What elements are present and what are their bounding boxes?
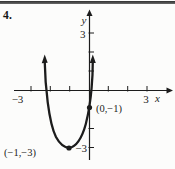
curve-left-arrowhead-icon <box>42 55 48 64</box>
x-axis-arrowhead-icon <box>167 88 174 94</box>
point-y-intercept <box>87 105 92 110</box>
y-tick-label-3: 3 <box>80 28 86 40</box>
textbook-figure: 4. y <box>0 0 175 169</box>
parabola-curve <box>45 61 93 148</box>
y-axis-label: y <box>81 14 87 26</box>
x-axis-label: x <box>154 92 160 104</box>
y-axis-arrowhead-icon <box>87 10 93 17</box>
point-y-intercept-label: (0,−1) <box>96 103 123 115</box>
point-vertex <box>66 145 71 150</box>
y-tick-label-neg3: −3 <box>75 142 87 154</box>
point-vertex-label: (−1,−3) <box>4 147 36 159</box>
curve-right-arrowhead-icon <box>90 55 96 64</box>
parabola-graph: y 3 −3 −3 3 x (0,−1) (−1,−3) <box>0 0 175 169</box>
x-tick-label-neg3: −3 <box>12 93 24 105</box>
x-tick-label-3: 3 <box>143 93 149 105</box>
